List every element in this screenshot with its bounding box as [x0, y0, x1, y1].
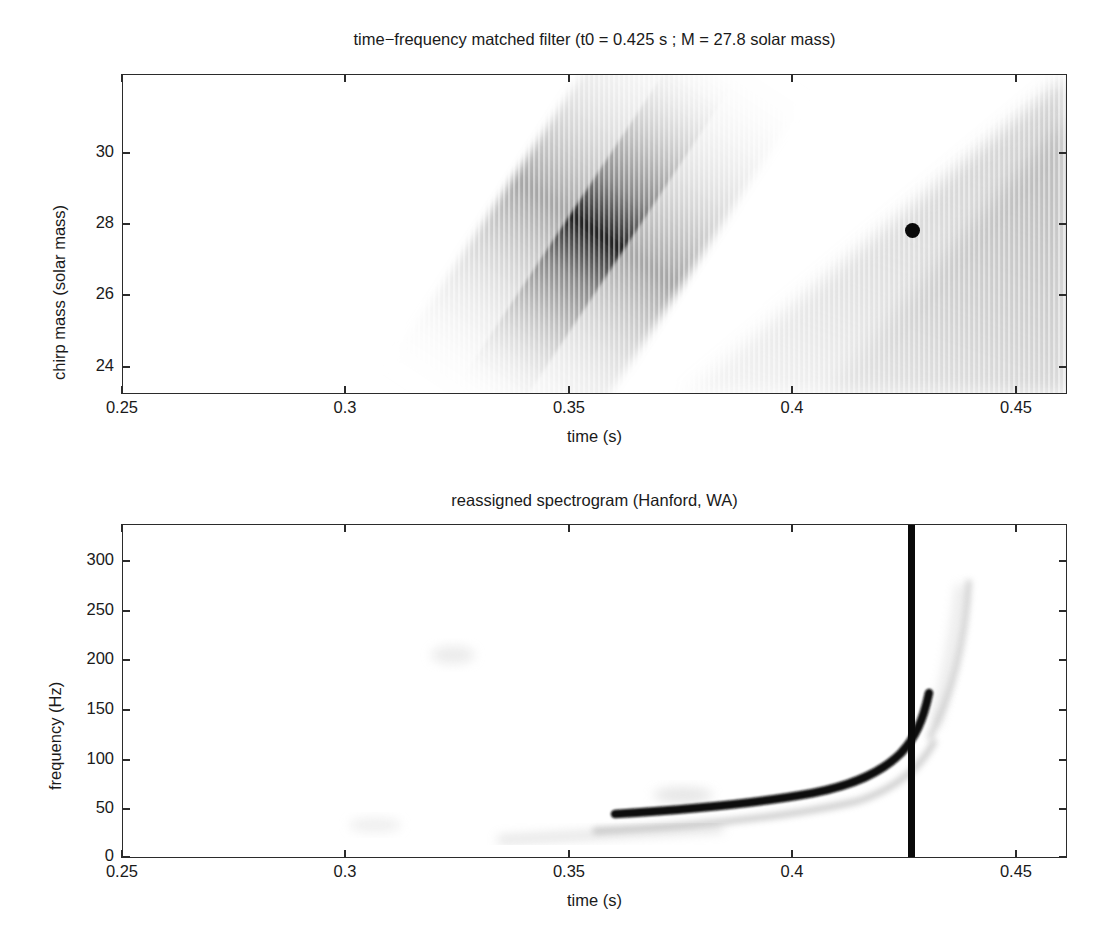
matched-filter-striations — [123, 75, 1067, 394]
matched-filter-title: time−frequency matched filter (t0 = 0.42… — [122, 30, 1067, 49]
tick-x-bottom-panel-top-5 — [1015, 524, 1017, 532]
tick-y-bottom-panel-2 — [122, 610, 130, 612]
tick-y-bottom-panel-r6 — [1059, 808, 1067, 810]
ytick-label-bottom-panel-50: 50 — [52, 798, 114, 817]
spectrogram-axes — [122, 524, 1067, 858]
ytick-label-top-panel-30: 30 — [62, 142, 114, 161]
tick-x-bottom-panel-5 — [1015, 850, 1017, 858]
matched-filter-peak-marker — [905, 223, 920, 238]
xtick-label-top-panel-4: 0.4 — [746, 398, 838, 417]
tick-x-bottom-panel-3 — [568, 850, 570, 858]
spectrogram-title: reassigned spectrogram (Hanford, WA) — [122, 491, 1067, 510]
ytick-label-bottom-panel-200: 200 — [52, 649, 114, 668]
xtick-label-top-panel-5: 0.45 — [970, 398, 1062, 417]
tick-y-bottom-panel-5 — [122, 759, 130, 761]
tick-x-top-panel-top-1 — [121, 74, 123, 82]
tick-y-bottom-panel-6 — [122, 808, 130, 810]
tick-x-top-panel-top-2 — [344, 74, 346, 82]
ytick-label-bottom-panel-300: 300 — [52, 550, 114, 569]
ytick-label-bottom-panel-100: 100 — [52, 749, 114, 768]
spectrogram-noise-speck-3 — [349, 818, 401, 832]
tick-x-top-panel-top-5 — [1015, 74, 1017, 82]
tick-x-bottom-panel-top-2 — [344, 524, 346, 532]
spectrogram-noise-speck-1 — [431, 646, 475, 664]
tick-x-top-panel-1 — [121, 386, 123, 394]
tick-x-bottom-panel-top-4 — [791, 524, 793, 532]
ytick-label-bottom-panel-150: 150 — [52, 699, 114, 718]
tick-x-top-panel-top-4 — [791, 74, 793, 82]
tick-y-bottom-panel-7 — [122, 856, 130, 858]
tick-y-top-panel-r4 — [1059, 366, 1067, 368]
tick-y-bottom-panel-r7 — [1059, 856, 1067, 858]
spectrogram-noise-speck-2 — [653, 787, 713, 803]
ytick-label-bottom-panel-250: 250 — [52, 600, 114, 619]
spectrogram-merger-line — [908, 525, 915, 858]
tick-y-top-panel-2 — [122, 223, 130, 225]
xtick-label-bottom-panel-2: 0.3 — [299, 862, 391, 881]
xtick-label-top-panel-2: 0.3 — [299, 398, 391, 417]
tick-y-bottom-panel-r2 — [1059, 610, 1067, 612]
tick-y-bottom-panel-3 — [122, 659, 130, 661]
tick-y-top-panel-r2 — [1059, 223, 1067, 225]
tick-y-top-panel-4 — [122, 366, 130, 368]
tick-y-top-panel-r1 — [1059, 152, 1067, 154]
tick-x-bottom-panel-2 — [344, 850, 346, 858]
tick-y-top-panel-r3 — [1059, 294, 1067, 296]
tick-y-bottom-panel-r5 — [1059, 759, 1067, 761]
matched-filter-heatmap — [123, 75, 1067, 394]
spectrogram-xlabel: time (s) — [122, 891, 1067, 910]
tick-y-bottom-panel-1 — [122, 560, 130, 562]
tick-x-bottom-panel-top-1 — [121, 524, 123, 532]
tick-y-bottom-panel-r1 — [1059, 560, 1067, 562]
matched-filter-axes — [122, 74, 1067, 394]
xtick-label-bottom-panel-5: 0.45 — [970, 862, 1062, 881]
tick-y-bottom-panel-4 — [122, 709, 130, 711]
xtick-label-bottom-panel-3: 0.35 — [523, 862, 615, 881]
ytick-label-top-panel-24: 24 — [62, 356, 114, 375]
tick-x-top-panel-top-3 — [568, 74, 570, 82]
ytick-label-top-panel-28: 28 — [62, 213, 114, 232]
xtick-label-bottom-panel-4: 0.4 — [746, 862, 838, 881]
tick-x-top-panel-2 — [344, 386, 346, 394]
tick-y-bottom-panel-r3 — [1059, 659, 1067, 661]
tick-y-top-panel-1 — [122, 152, 130, 154]
matched-filter-xlabel: time (s) — [122, 427, 1067, 446]
tick-x-top-panel-3 — [568, 386, 570, 394]
ytick-label-top-panel-26: 26 — [62, 284, 114, 303]
tick-y-top-panel-3 — [122, 294, 130, 296]
xtick-label-top-panel-1: 0.25 — [76, 398, 168, 417]
tick-x-bottom-panel-top-3 — [568, 524, 570, 532]
tick-x-top-panel-4 — [791, 386, 793, 394]
spectrogram-image — [123, 525, 1067, 858]
tick-x-bottom-panel-4 — [791, 850, 793, 858]
figure-canvas: time−frequency matched filter (t0 = 0.42… — [0, 0, 1108, 935]
tick-y-bottom-panel-r4 — [1059, 709, 1067, 711]
xtick-label-bottom-panel-1: 0.25 — [76, 862, 168, 881]
tick-x-top-panel-5 — [1015, 386, 1017, 394]
xtick-label-top-panel-3: 0.35 — [523, 398, 615, 417]
